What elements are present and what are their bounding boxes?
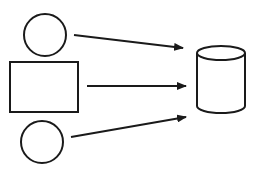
circle-node-bottom [21,121,63,163]
arrow-top-to-database [74,35,183,48]
circle-node-top [24,14,66,56]
database-cylinder-icon [197,46,245,113]
arrow-bottom-to-database [71,117,186,137]
diagram-canvas [0,0,260,177]
rectangle-node [10,62,78,112]
